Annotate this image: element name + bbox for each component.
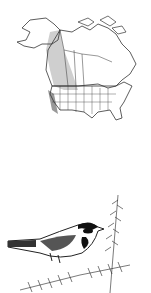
range-map <box>12 10 142 125</box>
warbler <box>8 222 104 263</box>
bird-illustration <box>0 195 151 293</box>
